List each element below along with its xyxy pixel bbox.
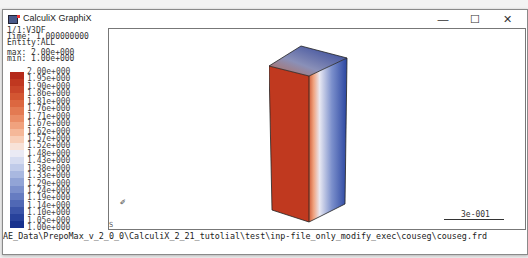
- viewport-corner-label: S: [109, 221, 113, 229]
- scale-bar: [444, 219, 504, 220]
- desktop-strip: [0, 0, 528, 8]
- minimize-button[interactable]: —: [431, 12, 455, 26]
- model-box-render: [269, 44, 349, 224]
- legend-swatch: [10, 207, 24, 214]
- legend-swatch: [10, 178, 24, 185]
- title-bar[interactable]: CalculiX GraphiX — ☐ ✕: [3, 10, 527, 28]
- close-button[interactable]: ✕: [495, 12, 519, 26]
- legend-swatch: [10, 200, 24, 207]
- legend-swatch: [10, 221, 24, 228]
- entity-label: Entity:ALL: [7, 40, 55, 46]
- color-legend-labels: 2.00e+0001.95e+0001.90e+0001.86e+0001.81…: [27, 68, 70, 232]
- color-legend-bar: [10, 72, 24, 228]
- legend-swatch: [10, 157, 24, 164]
- legend-swatch: [10, 115, 24, 122]
- app-icon: [8, 15, 18, 24]
- axis-triad-icon: ✐: [120, 197, 125, 207]
- legend-swatch: [10, 122, 24, 129]
- legend-swatch: [10, 186, 24, 193]
- window-title: CalculiX GraphiX: [23, 13, 92, 23]
- cgx-window: CalculiX GraphiX — ☐ ✕ 1/1:V3DF Time: 1.…: [2, 9, 528, 255]
- legend-swatch: [10, 136, 24, 143]
- legend-swatch: [10, 79, 24, 86]
- legend-swatch: [10, 86, 24, 93]
- min-label: min: 1.00e+000: [7, 56, 74, 62]
- legend-swatch: [10, 93, 24, 100]
- legend-swatch: [10, 72, 24, 79]
- legend-swatch: [10, 193, 24, 200]
- legend-swatch: [10, 171, 24, 178]
- legend-swatch: [10, 143, 24, 150]
- scale-label: 3e-001: [461, 210, 490, 219]
- legend-swatch: [10, 107, 24, 114]
- command-line-output[interactable]: AE_Data\PrepoMax_v_2_0_0\CalculiX_2_21_t…: [3, 231, 527, 241]
- legend-swatch: [10, 214, 24, 221]
- maximize-button[interactable]: ☐: [463, 12, 487, 26]
- legend-swatch: [10, 129, 24, 136]
- legend-swatch: [10, 150, 24, 157]
- legend-swatch: [10, 100, 24, 107]
- 3d-viewport[interactable]: ✐ S 3e-001: [108, 28, 526, 230]
- legend-swatch: [10, 164, 24, 171]
